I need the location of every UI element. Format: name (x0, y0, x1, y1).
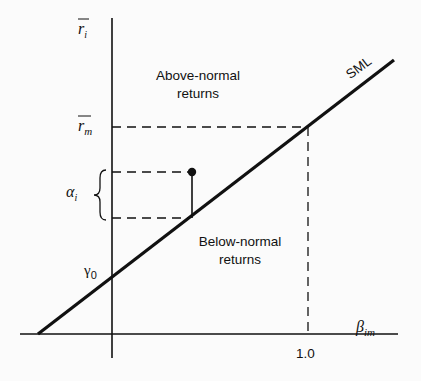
gamma-label: γ0 (84, 262, 97, 281)
x-tick-label: 1.0 (296, 346, 315, 361)
rm-label: rm (78, 117, 92, 137)
security-point (188, 168, 196, 176)
x-axis-label: βim (356, 318, 375, 338)
below-normal-label: Below-normal returns (180, 233, 300, 269)
y-axis-label: ri (78, 20, 87, 40)
above-normal-line1: Above-normal (138, 67, 258, 85)
above-normal-label: Above-normal returns (138, 67, 258, 103)
above-normal-line2: returns (138, 85, 258, 103)
alpha-brace (94, 170, 106, 220)
below-normal-line1: Below-normal (180, 233, 300, 251)
alpha-label: αi (66, 183, 77, 203)
below-normal-line2: returns (180, 251, 300, 269)
